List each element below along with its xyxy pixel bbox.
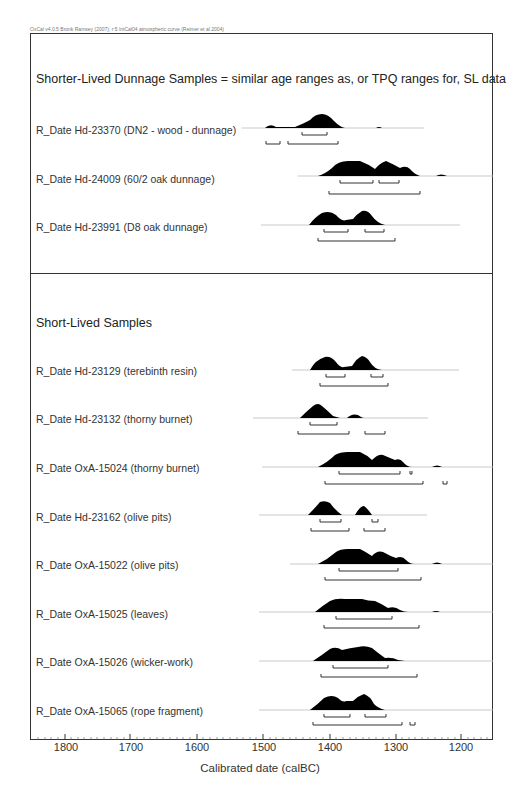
density-ox15022	[318, 549, 442, 564]
probability-densities	[265, 114, 447, 710]
x-tick-1300: 1300	[384, 741, 408, 753]
x-axis-title: Calibrated date (calBC)	[0, 762, 520, 774]
density-hd-23162	[308, 501, 372, 515]
density-ox15025	[315, 599, 440, 612]
density-hd-24009	[318, 161, 447, 176]
density-hd-ox15024	[318, 452, 442, 467]
density-hd-23129	[310, 356, 382, 370]
x-tick-1800: 1800	[54, 741, 78, 753]
density-hd-23991	[309, 211, 385, 225]
density-ox15026	[313, 646, 405, 661]
density-hd-23132	[300, 404, 364, 418]
x-tick-1700: 1700	[119, 741, 143, 753]
x-axis-ticks	[65, 734, 461, 740]
x-tick-1600: 1600	[185, 741, 209, 753]
density-ox15065	[310, 694, 400, 710]
distribution-plot	[0, 0, 520, 804]
density-hd-23370	[265, 114, 382, 128]
x-tick-1500: 1500	[252, 741, 276, 753]
x-tick-1200: 1200	[449, 741, 473, 753]
x-tick-1400: 1400	[318, 741, 342, 753]
